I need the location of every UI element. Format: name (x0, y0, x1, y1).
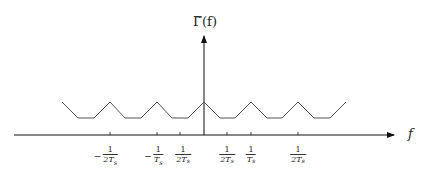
x-axis-label: f (408, 126, 413, 141)
tick-label-half-ts-c: 1 2Ts (290, 145, 306, 165)
tick-label-one-ts: 1 Ts (246, 145, 256, 165)
tick-label-neg-one-ts: − 1 Ts (144, 145, 163, 168)
tick-label-half-ts-a: 1 2Ts (175, 145, 191, 165)
tick-label-neg-half-ts: − 1 2Ts (94, 145, 118, 168)
y-axis-label: Γ̃(f) (193, 14, 217, 29)
tick-label-half-ts-b: 1 2Ts (219, 145, 235, 165)
